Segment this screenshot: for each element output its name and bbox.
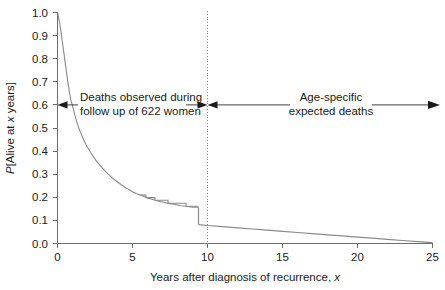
x-axis-ticks: 0 5 10 15 20 25 xyxy=(54,244,439,264)
x-tick-label: 5 xyxy=(129,251,135,263)
y-tick-label: 1.0 xyxy=(32,7,48,19)
y-tick-8: 0.8 xyxy=(32,53,58,65)
y-axis-title-suffix: years] xyxy=(4,82,16,117)
annotation-left-span: Deaths observed during follow up of 622 … xyxy=(58,91,208,117)
x-tick-1: 5 xyxy=(129,244,135,264)
annotation-right-line-2: expected deaths xyxy=(289,105,374,117)
y-tick-label: 0.7 xyxy=(32,76,48,88)
expected-survival-curve xyxy=(199,225,433,243)
y-axis-ticks: 0.0 0.1 0.2 0.3 0.4 0.5 xyxy=(32,7,58,250)
x-tick-3: 15 xyxy=(276,244,289,264)
y-axis-title-mid: [Alive at xyxy=(4,122,16,166)
y-tick-label: 0.1 xyxy=(32,214,48,226)
y-tick-10: 1.0 xyxy=(32,7,58,19)
y-tick-9: 0.9 xyxy=(32,30,58,42)
x-tick-2: 10 xyxy=(201,244,214,264)
y-tick-label: 0.8 xyxy=(32,53,48,65)
y-tick-6: 0.6 xyxy=(32,99,58,111)
x-tick-label: 20 xyxy=(351,251,364,263)
y-tick-2: 0.2 xyxy=(32,191,58,203)
x-axis-title: Years after diagnosis of recurrence, x xyxy=(150,271,341,283)
y-tick-label: 0.5 xyxy=(32,122,48,134)
x-tick-4: 20 xyxy=(351,244,364,264)
y-tick-label: 0.0 xyxy=(32,238,48,250)
x-axis-title-italic: x xyxy=(333,271,341,283)
y-tick-5: 0.5 xyxy=(32,122,58,134)
y-tick-label: 0.9 xyxy=(32,30,48,42)
survival-chart-figure: 0.0 0.1 0.2 0.3 0.4 0.5 xyxy=(0,0,445,290)
x-tick-label: 15 xyxy=(276,251,289,263)
annotation-left-arrowhead-start xyxy=(58,101,68,108)
x-tick-label: 25 xyxy=(426,251,439,263)
y-axis-title: P[Alive at x years] xyxy=(4,82,16,174)
axes-group xyxy=(58,12,434,244)
annotation-right-line-1: Age-specific xyxy=(300,91,363,103)
y-tick-label: 0.4 xyxy=(32,145,49,157)
annotation-right-arrowhead-end xyxy=(428,101,440,109)
annotation-left-line-2: follow up of 622 women xyxy=(80,105,201,117)
x-tick-label: 0 xyxy=(54,251,60,263)
y-tick-1: 0.1 xyxy=(32,214,58,226)
y-tick-label: 0.6 xyxy=(32,99,48,111)
annotation-left-line-1: Deaths observed during xyxy=(80,91,202,103)
x-axis-title-main: Years after diagnosis of recurrence, xyxy=(150,271,334,283)
x-tick-5: 25 xyxy=(426,244,439,264)
y-tick-7: 0.7 xyxy=(32,76,58,88)
y-tick-label: 0.2 xyxy=(32,191,48,203)
chart-canvas: 0.0 0.1 0.2 0.3 0.4 0.5 xyxy=(0,0,445,290)
y-tick-4: 0.4 xyxy=(32,145,58,157)
km-step-detail xyxy=(140,195,199,206)
y-tick-0: 0.0 xyxy=(32,238,58,250)
x-tick-label: 10 xyxy=(201,251,214,263)
annotation-right-span: Age-specific expected deaths xyxy=(208,91,441,117)
y-tick-label: 0.3 xyxy=(32,168,48,180)
x-tick-0: 0 xyxy=(54,244,60,264)
y-tick-3: 0.3 xyxy=(32,168,58,180)
annotation-right-arrowhead-start xyxy=(208,101,218,108)
